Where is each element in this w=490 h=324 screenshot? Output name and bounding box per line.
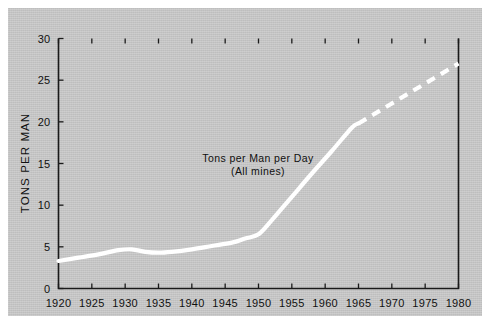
y-axis-title: TONS PER MAN (19, 113, 31, 214)
x-tick-label: 1970 (379, 297, 405, 309)
x-tick-label: 1955 (279, 297, 305, 309)
x-tick-label: 1935 (146, 297, 172, 309)
y-tick-label: 0 (44, 283, 50, 295)
y-tick-label: 25 (38, 74, 51, 86)
y-tick-label: 20 (38, 116, 51, 128)
x-tick-label: 1930 (112, 297, 138, 309)
x-tick-label: 1960 (312, 297, 338, 309)
x-tick-label: 1945 (212, 297, 238, 309)
x-tick-label: 1975 (412, 297, 438, 309)
y-tick-label: 10 (38, 199, 51, 211)
x-tick-label: 1940 (179, 297, 205, 309)
y-axis-tick-labels: 051015202530 (38, 33, 51, 295)
x-tick-label: 1920 (46, 297, 72, 309)
series-line-dashed-projection (359, 64, 459, 124)
y-tick-label: 15 (38, 158, 51, 170)
series-annotation-line-1: Tons per Man per Day (202, 152, 314, 164)
x-tick-label: 1950 (246, 297, 272, 309)
y-tick-label: 30 (38, 33, 51, 45)
x-tick-label: 1965 (346, 297, 372, 309)
series-line-solid (59, 124, 359, 262)
series-annotation-line-2: (All mines) (231, 165, 285, 177)
y-tick-label: 5 (44, 241, 50, 253)
chart-screenshot: 051015202530 192019251930193519401945195… (0, 0, 490, 324)
line-chart-figure: 051015202530 192019251930193519401945195… (0, 0, 490, 324)
x-tick-label: 1980 (446, 297, 472, 309)
x-axis-tick-labels: 1920192519301935194019451950195519601965… (46, 297, 472, 309)
x-tick-label: 1925 (79, 297, 105, 309)
